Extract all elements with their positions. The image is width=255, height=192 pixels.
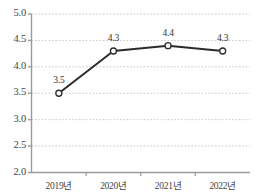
data-point-marker (56, 90, 62, 96)
y-tick-label: 2.0 (2, 166, 26, 177)
y-tick-label: 2.5 (2, 139, 26, 150)
y-tick-label: 5.0 (2, 7, 26, 18)
chart-canvas (0, 0, 255, 192)
x-tick-label: 2021년 (140, 178, 196, 192)
data-point-markers (56, 43, 226, 97)
data-point-label: 4.3 (98, 33, 128, 43)
x-tick-label: 2022년 (195, 178, 251, 192)
x-tick-label: 2019년 (31, 178, 87, 192)
y-tick-label: 3.5 (2, 86, 26, 97)
data-point-marker (220, 48, 226, 54)
line-chart: 5.04.54.03.53.02.52.0 2019년2020년2021년202… (0, 0, 255, 192)
y-tick-label: 3.0 (2, 113, 26, 124)
data-point-label: 4.3 (208, 33, 238, 43)
y-tick-label: 4.0 (2, 60, 26, 71)
data-point-marker (165, 43, 171, 49)
data-point-marker (110, 48, 116, 54)
data-point-label: 3.5 (44, 75, 74, 85)
data-point-label: 4.4 (153, 28, 183, 38)
series-line (59, 46, 223, 94)
y-tick-label: 4.5 (2, 33, 26, 44)
x-tick-label: 2020년 (85, 178, 141, 192)
